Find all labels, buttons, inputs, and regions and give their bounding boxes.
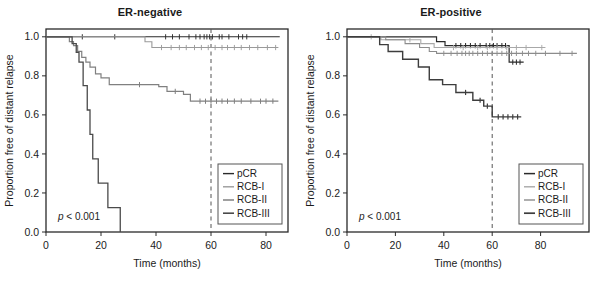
legend-item-label: pCR <box>237 168 257 179</box>
y-axis-title: Proportion free of distant relapse <box>3 54 15 206</box>
series-rcb-iii <box>347 37 521 120</box>
p-value-text: p < 0.001 <box>358 211 401 222</box>
legend-item-label: RCB-II <box>237 194 267 205</box>
x-axis-tick-label: 0 <box>344 239 350 251</box>
panel-er-negative: ER-negative 0204060800.00.20.40.60.81.0T… <box>0 0 300 283</box>
y-axis-tick-label: 0.2 <box>325 187 340 199</box>
x-axis-tick-label: 20 <box>390 239 402 251</box>
survival-curve <box>46 37 120 232</box>
plot-er-negative: 0204060800.00.20.40.60.81.0Time (months)… <box>0 0 300 283</box>
panel-title-er-positive: ER-positive <box>301 6 601 18</box>
x-axis-tick-label: 80 <box>260 239 272 251</box>
x-axis-tick-label: 60 <box>486 239 498 251</box>
x-axis-tick-label: 20 <box>95 239 107 251</box>
x-axis-title: Time (months) <box>434 257 501 269</box>
y-axis-tick-label: 0.6 <box>325 108 340 120</box>
legend-item-label: RCB-I <box>538 181 565 192</box>
x-axis-tick-label: 80 <box>535 239 547 251</box>
y-axis-tick-label: 0.0 <box>325 226 340 238</box>
y-axis-tick-label: 0.2 <box>24 187 39 199</box>
y-axis-tick-label: 0.4 <box>325 148 340 160</box>
legend-item-label: pCR <box>538 168 558 179</box>
p-value-annotation: p < 0.001 <box>57 211 100 222</box>
series-rcb-i <box>46 37 278 50</box>
x-axis-tick-label: 40 <box>150 239 162 251</box>
panel-er-positive: ER-positive 0204060800.00.20.40.60.81.0T… <box>301 0 601 283</box>
y-axis-tick-label: 0.8 <box>24 69 39 81</box>
kaplan-meier-figure: ER-negative 0204060800.00.20.40.60.81.0T… <box>0 0 601 283</box>
x-axis-tick-label: 60 <box>205 239 217 251</box>
legend-item-label: RCB-II <box>538 194 568 205</box>
y-axis-tick-label: 0.4 <box>24 148 39 160</box>
y-axis-tick-label: 1.0 <box>24 30 39 42</box>
panel-title-er-negative: ER-negative <box>0 6 300 18</box>
y-axis-tick-label: 0.6 <box>24 108 39 120</box>
p-value-annotation: p < 0.001 <box>358 211 401 222</box>
y-axis-tick-label: 0.8 <box>325 69 340 81</box>
y-axis-tick-label: 1.0 <box>325 30 340 42</box>
y-axis-title: Proportion free of distant relapse <box>304 54 316 206</box>
p-value-text: p < 0.001 <box>57 211 100 222</box>
survival-curve <box>347 37 521 117</box>
series-rcb-ii <box>46 37 278 104</box>
x-axis-title: Time (months) <box>133 257 200 269</box>
p-value-comparator: < 0.001 <box>365 211 402 222</box>
x-axis-tick-label: 40 <box>438 239 450 251</box>
plot-er-positive: 0204060800.00.20.40.60.81.0Time (months)… <box>301 0 601 283</box>
p-value-comparator: < 0.001 <box>64 211 101 222</box>
legend-item-label: RCB-III <box>237 208 270 219</box>
legend: pCRRCB-IRCB-IIRCB-III <box>218 164 282 224</box>
series-pcr <box>347 37 524 65</box>
survival-curve <box>46 37 278 48</box>
y-axis-tick-label: 0.0 <box>24 226 39 238</box>
x-axis-tick-label: 0 <box>43 239 49 251</box>
series-rcb-iii <box>46 37 120 232</box>
legend: pCRRCB-IRCB-IIRCB-III <box>519 164 583 224</box>
legend-item-label: RCB-I <box>237 181 264 192</box>
legend-item-label: RCB-III <box>538 208 571 219</box>
survival-curve <box>46 37 278 101</box>
